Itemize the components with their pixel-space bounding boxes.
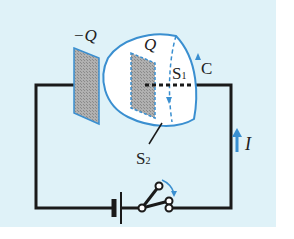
switch-icon xyxy=(139,183,173,212)
battery-icon xyxy=(114,192,141,224)
neg-plate-label: −Q xyxy=(73,26,97,45)
circuit-diagram: −Q Q S1 C S2 I xyxy=(0,0,294,239)
pos-plate-label: Q xyxy=(144,35,156,54)
switch-arrow-icon xyxy=(162,180,177,197)
current-label: I xyxy=(244,134,252,154)
curve-label: C xyxy=(201,59,212,78)
positive-plate xyxy=(131,53,155,118)
surface2-label: S2 xyxy=(136,149,150,168)
current-arrow-icon xyxy=(232,128,242,152)
negative-plate xyxy=(74,48,99,124)
